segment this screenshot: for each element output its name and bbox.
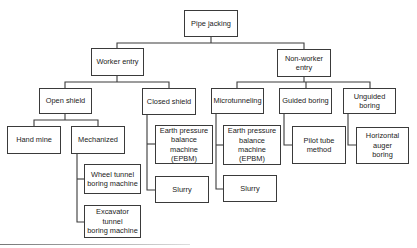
node-micro-epbm: Earth pressure balance machine (EPBM) <box>223 125 281 165</box>
node-open-shield: Open shield <box>39 88 92 114</box>
connector-lines <box>0 0 417 248</box>
node-non-worker-entry: Non-worker entry <box>277 49 331 77</box>
node-guided-boring: Guided boring <box>279 88 332 114</box>
node-pilot-tube-method: Pilot tube method <box>292 126 346 164</box>
node-wheel-tunnel-boring-machine: Wheel tunnel boring machine <box>84 164 141 194</box>
node-closed-shield: Closed shield <box>142 88 196 115</box>
node-unguided-boring: Unguided boring <box>343 88 396 114</box>
node-microtunneling: Microtunneling <box>211 88 264 114</box>
node-horizontal-auger-boring: Horizontal auger boring <box>356 127 409 164</box>
node-closed-epbm: Earth pressure balance machine (EPBM) <box>155 125 213 164</box>
pipe-jacking-classification-diagram: Pipe jacking Worker entry Non-worker ent… <box>0 0 417 248</box>
node-excavator-tunnel-boring-machine: Excavator tunnel boring machine <box>84 205 141 238</box>
node-hand-mine: Hand mine <box>7 126 61 154</box>
node-closed-slurry: Slurry <box>155 176 209 203</box>
node-worker-entry: Worker entry <box>91 48 144 76</box>
node-mechanized: Mechanized <box>71 126 125 154</box>
bottom-divider <box>0 244 190 245</box>
node-pipe-jacking: Pipe jacking <box>184 10 238 37</box>
node-micro-slurry: Slurry <box>223 175 277 202</box>
